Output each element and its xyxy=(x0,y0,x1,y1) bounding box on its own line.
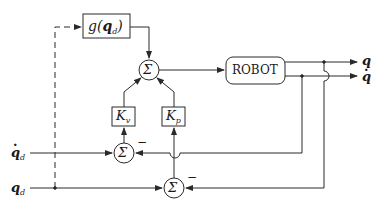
kp-label: Kp xyxy=(166,109,181,122)
sum-position-symbol: Σ xyxy=(168,181,177,194)
velocity-minus-sign: − xyxy=(137,136,147,148)
dashed-feedforward xyxy=(55,27,81,188)
position-minus-sign: − xyxy=(187,171,197,183)
input-qd-label: qd xyxy=(11,181,25,194)
sum-top-symbol: Σ xyxy=(143,63,152,76)
sum-velocity-symbol: Σ xyxy=(118,146,127,159)
control-diagram: g(qd) Σ Σ Σ − − ROBOT Kv Kp q q qd qd xyxy=(0,0,379,209)
gravity-block-label: g(qd) xyxy=(88,19,123,33)
robot-label: ROBOT xyxy=(232,64,278,76)
kv-label: Kv xyxy=(116,109,130,122)
input-qd-dot-label: qd xyxy=(11,146,25,159)
output-qdot-label: q xyxy=(362,70,379,83)
